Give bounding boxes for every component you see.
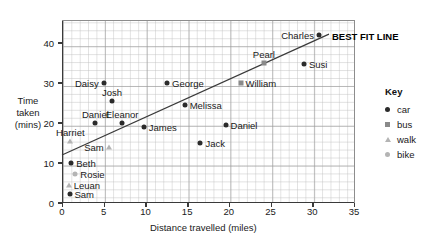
x-axis-title: Distance travelled (miles) <box>150 222 257 233</box>
legend-item-bus: bus <box>385 117 416 132</box>
bike-marker-icon <box>385 152 397 157</box>
data-point-harriet <box>67 138 73 143</box>
data-point-charles <box>316 32 321 37</box>
y-tick <box>58 42 62 43</box>
y-tick-label: 40 <box>36 37 54 48</box>
data-point-daniel <box>93 120 98 125</box>
legend-item-label: car <box>397 104 410 115</box>
data-point-george <box>165 80 170 85</box>
y-tick <box>58 122 62 123</box>
data-point-label: George <box>172 77 204 88</box>
data-point-label: Sam <box>84 141 104 152</box>
x-tick-label: 5 <box>101 206 106 217</box>
y-axis-title: Time taken (mins) <box>2 95 54 131</box>
x-tick-label: 30 <box>307 206 318 217</box>
data-point-william <box>238 80 243 85</box>
x-tick-label: 20 <box>224 206 235 217</box>
data-point-rosie <box>73 171 78 176</box>
data-point-label: Pearl <box>253 48 275 59</box>
data-point-label: Susi <box>309 58 327 69</box>
legend-item-label: bus <box>397 119 412 130</box>
y-tick-label: 10 <box>36 157 54 168</box>
data-point-label: Harriet <box>56 126 85 137</box>
y-tick <box>58 162 62 163</box>
car-marker-icon <box>385 107 397 112</box>
bus-marker-icon <box>385 122 397 127</box>
data-point-label: Daisy <box>75 77 99 88</box>
data-point-daisy <box>101 80 106 85</box>
legend-item-car: car <box>385 102 416 117</box>
data-point-beth <box>69 160 74 165</box>
legend-key: Key carbuswalkbike <box>385 86 416 162</box>
data-point-sam <box>67 191 72 196</box>
legend-item-walk: walk <box>385 132 416 147</box>
data-point-label: Beth <box>76 157 96 168</box>
data-point-label: William <box>246 77 277 88</box>
y-tick-label: 30 <box>36 77 54 88</box>
data-point-eleanor <box>120 120 125 125</box>
legend-rows: carbuswalkbike <box>385 102 416 162</box>
legend-item-label: bike <box>397 149 414 160</box>
data-point-melissa <box>182 102 187 107</box>
plot-right-border <box>354 20 355 203</box>
data-point-label: Sam <box>75 188 95 199</box>
x-tick-label: 25 <box>265 206 276 217</box>
y-axis-title-line1: Time <box>2 95 54 107</box>
best-fit-line-label: BEST FIT LINE <box>332 31 399 42</box>
y-tick <box>58 82 62 83</box>
data-point-leuan <box>66 182 72 187</box>
y-tick <box>58 202 62 203</box>
data-point-label: Rosie <box>80 168 104 179</box>
plot-top-border <box>62 20 355 21</box>
data-point-label: James <box>149 121 177 132</box>
data-point-label: Charles <box>281 29 314 40</box>
walk-marker-icon <box>385 137 397 142</box>
x-tick-label: 35 <box>349 206 360 217</box>
data-point-pearl <box>261 60 266 65</box>
x-tick-label: 15 <box>182 206 193 217</box>
x-tick-label: 10 <box>140 206 151 217</box>
legend-title: Key <box>385 86 416 97</box>
data-point-label: Daniel <box>231 119 258 130</box>
scatter-graph-figure: BEST FIT LINE 05101520253035010203040 Da… <box>0 0 432 246</box>
legend-item-bike: bike <box>385 147 416 162</box>
legend-item-label: walk <box>397 134 416 145</box>
data-point-label: Melissa <box>190 99 222 110</box>
data-point-label: Eleanor <box>106 108 139 119</box>
data-point-label: Josh <box>102 86 122 97</box>
y-tick-label: 0 <box>36 198 54 209</box>
x-tick-label: 0 <box>59 206 64 217</box>
data-point-james <box>141 124 146 129</box>
data-point-josh <box>110 98 115 103</box>
data-point-susi <box>301 61 306 66</box>
y-axis-title-line2: taken <box>2 107 54 119</box>
data-point-daniel <box>223 122 228 127</box>
data-point-sam <box>106 144 112 149</box>
y-axis-title-line3: (mins) <box>2 119 54 131</box>
data-point-jack <box>198 140 203 145</box>
data-point-label: Jack <box>205 137 225 148</box>
